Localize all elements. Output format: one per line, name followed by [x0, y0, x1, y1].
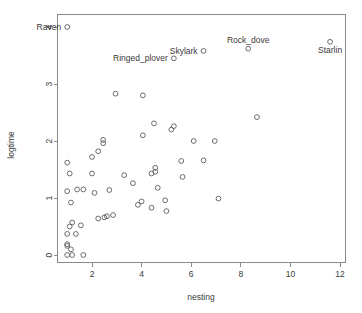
data-point [81, 187, 86, 192]
data-point [90, 155, 95, 160]
data-point [201, 158, 206, 163]
data-point [65, 189, 70, 194]
data-point [90, 171, 95, 176]
data-point [113, 91, 118, 96]
plot-canvas: 24681012 01234 RavenRock_doveStarlinSkyl… [0, 0, 362, 313]
point-label-skylark: Skylark [170, 46, 199, 56]
x-axis-ticks: 24681012 [90, 263, 345, 279]
data-point [169, 127, 174, 132]
data-point [171, 56, 176, 61]
data-points [65, 25, 333, 258]
point-labels: RavenRock_doveStarlinSkylarkRinged_plove… [37, 22, 343, 63]
data-point [96, 149, 101, 154]
data-point [73, 232, 78, 237]
data-point [179, 159, 184, 164]
x-tick-label: 8 [238, 269, 243, 279]
data-point [135, 202, 140, 207]
data-point [140, 133, 145, 138]
y-tick-label: 0 [44, 252, 54, 257]
data-point [163, 198, 168, 203]
data-point [212, 139, 217, 144]
data-point [65, 25, 70, 30]
data-point [65, 232, 70, 237]
data-point [152, 121, 157, 126]
x-tick-label: 6 [189, 269, 194, 279]
data-point [155, 185, 160, 190]
data-point [255, 115, 260, 120]
data-point [107, 188, 112, 193]
data-point [67, 224, 72, 229]
y-tick-label: 3 [44, 81, 54, 86]
point-label-starlin: Starlin [318, 45, 342, 55]
data-point [67, 171, 72, 176]
y-tick-label: 1 [44, 195, 54, 200]
y-axis-title: logtime [6, 131, 16, 159]
data-point [92, 190, 97, 195]
data-point [246, 46, 251, 51]
data-point [101, 141, 106, 146]
data-point [131, 181, 136, 186]
y-axis-ticks: 01234 [44, 24, 58, 257]
y-tick-label: 2 [44, 138, 54, 143]
scatter-plot-figure: 24681012 01234 RavenRock_doveStarlinSkyl… [0, 0, 362, 313]
data-point [180, 175, 185, 180]
x-axis-title: nesting [187, 292, 215, 302]
data-point [149, 205, 154, 210]
data-point [191, 139, 196, 144]
data-point [78, 223, 83, 228]
data-point [216, 196, 221, 201]
data-point [328, 39, 333, 44]
data-point [75, 187, 80, 192]
data-point [111, 213, 116, 218]
point-label-ringed_plover: Ringed_plover [113, 53, 168, 63]
data-point [96, 216, 101, 221]
data-point [65, 160, 70, 165]
data-point [81, 253, 86, 258]
data-point [69, 200, 74, 205]
data-point [70, 253, 75, 258]
point-label-rock_dove: Rock_dove [227, 35, 270, 45]
data-point [201, 49, 206, 54]
data-point [171, 124, 176, 129]
point-label-raven: Raven [37, 22, 62, 32]
x-tick-label: 10 [286, 269, 296, 279]
data-point [69, 247, 74, 252]
data-point [65, 253, 70, 258]
x-tick-label: 4 [139, 269, 144, 279]
data-point [140, 93, 145, 98]
x-tick-label: 12 [335, 269, 345, 279]
x-tick-label: 2 [90, 269, 95, 279]
data-point [164, 209, 169, 214]
data-point [122, 173, 127, 178]
